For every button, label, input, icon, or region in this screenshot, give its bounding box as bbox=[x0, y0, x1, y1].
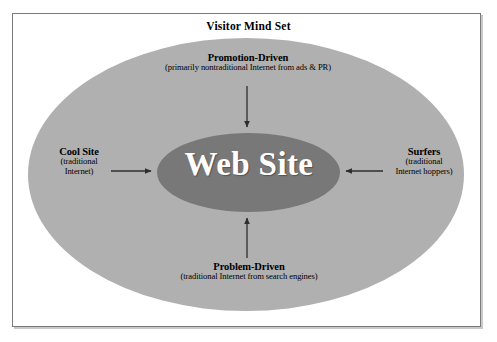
promotion-driven-subtitle: (primarily nontraditional Internet from … bbox=[98, 63, 398, 72]
label-problem-driven: Problem-Driven (traditional Internet fro… bbox=[128, 261, 370, 282]
cool-site-subtitle-line2: Internet) bbox=[42, 167, 116, 177]
diagram-title: Visitor Mind Set bbox=[0, 20, 497, 32]
label-cool-site: Cool Site (traditional Internet) bbox=[42, 146, 116, 177]
label-promotion-driven: Promotion-Driven (primarily nontradition… bbox=[98, 52, 398, 73]
problem-driven-subtitle: (traditional Internet from search engine… bbox=[128, 272, 370, 281]
visitor-mind-set-diagram: Visitor Mind Set Promotion-Driven (prima… bbox=[0, 0, 497, 342]
center-label-web-site: Web Site bbox=[157, 148, 341, 181]
surfers-subtitle-line2: Internet hoppers) bbox=[376, 167, 472, 177]
label-surfers: Surfers (traditional Internet hoppers) bbox=[376, 146, 472, 177]
